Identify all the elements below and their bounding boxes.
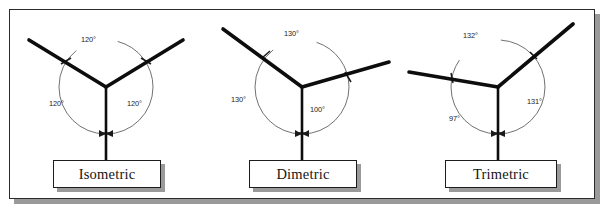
isometric-left-axis (29, 40, 106, 87)
panel-dimetric: 130° 130° 100° Dimetric (205, 9, 401, 199)
trimetric-left-axis (409, 72, 498, 87)
panel-container: 120° 120° 120° Isometric (9, 9, 595, 199)
figure-root: 120° 120° 120° Isometric (0, 0, 611, 221)
dimetric-angle-lower-right: 100° (310, 105, 325, 114)
trimetric-label-text: Trimetric (473, 166, 529, 183)
isometric-right-axis (106, 40, 183, 87)
trimetric-right-axis (498, 24, 573, 87)
isometric-label-text: Isometric (79, 166, 136, 183)
trimetric-angle-lower-left: 97° (449, 114, 460, 123)
dimetric-right-axis (302, 62, 389, 87)
isometric-label-box: Isometric (53, 160, 161, 188)
panel-isometric: 120° 120° 120° Isometric (9, 9, 205, 199)
dimetric-arc-ticks (262, 51, 351, 133)
dimetric-label-text: Dimetric (276, 166, 329, 183)
trimetric-angle-lower-right: 131° (527, 97, 542, 106)
dimetric-angle-top: 130° (284, 29, 299, 38)
dimetric-label-box: Dimetric (249, 160, 357, 188)
dimetric-angle-lower-left: 130° (231, 95, 246, 104)
isometric-angle-lower-left: 120° (49, 99, 64, 108)
isometric-angle-top: 120° (81, 35, 96, 44)
isometric-angle-lower-right: 120° (127, 99, 142, 108)
trimetric-angle-top: 132° (463, 31, 478, 40)
trimetric-label-box: Trimetric (445, 160, 557, 188)
panel-trimetric: 132° 97° 131° Trimetric (401, 9, 597, 199)
